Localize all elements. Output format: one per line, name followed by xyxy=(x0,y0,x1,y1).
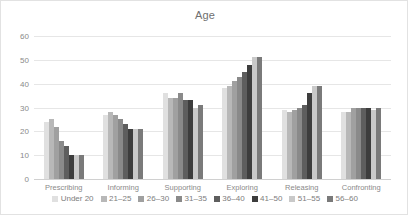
bar[interactable] xyxy=(317,86,322,179)
bar-group: Supporting xyxy=(153,36,213,179)
bar[interactable] xyxy=(257,57,262,179)
legend-item[interactable]: 21–25 xyxy=(101,194,132,203)
bar[interactable] xyxy=(198,105,203,179)
x-axis-category-label: Informing xyxy=(94,183,154,192)
legend-item[interactable]: 51–55 xyxy=(289,194,320,203)
x-axis-category-label: Prescribing xyxy=(34,183,94,192)
legend-label: 56–60 xyxy=(336,194,358,203)
bar-group: Informing xyxy=(94,36,154,179)
legend-item[interactable]: 26–30 xyxy=(138,194,169,203)
legend-item[interactable]: 56–60 xyxy=(327,194,358,203)
gridline-0: 0 xyxy=(34,179,391,180)
legend-label: 21–25 xyxy=(109,194,131,203)
legend-swatch-icon xyxy=(101,196,107,202)
legend-item[interactable]: 31–35 xyxy=(176,194,207,203)
legend-label: 31–35 xyxy=(185,194,207,203)
x-axis-category-label: Confronting xyxy=(332,183,392,192)
legend-label: 26–30 xyxy=(147,194,169,203)
legend-item[interactable]: Under 20 xyxy=(52,194,93,203)
x-axis-category-label: Releasing xyxy=(272,183,332,192)
bar[interactable] xyxy=(376,108,381,180)
bar-group: Confronting xyxy=(332,36,392,179)
legend-label: 41–50 xyxy=(260,194,282,203)
legend-swatch-icon xyxy=(327,196,333,202)
bar-group: Releasing xyxy=(272,36,332,179)
legend-swatch-icon xyxy=(176,196,182,202)
bar[interactable] xyxy=(138,129,143,179)
legend-label: 51–55 xyxy=(298,194,320,203)
y-axis-tick-label: 40 xyxy=(20,79,29,88)
legend-swatch-icon xyxy=(52,196,58,202)
bar-group: Prescribing xyxy=(34,36,94,179)
bar-group: Exploring xyxy=(213,36,273,179)
y-axis-tick-label: 0 xyxy=(25,175,29,184)
y-axis-tick-label: 30 xyxy=(20,103,29,112)
chart-legend: Under 2021–2526–3031–3536–4041–5051–5556… xyxy=(1,194,408,203)
chart-card: Age 6050403020100 PrescribingInformingSu… xyxy=(0,0,408,215)
y-axis-tick-label: 10 xyxy=(20,151,29,160)
y-axis-tick-label: 50 xyxy=(20,55,29,64)
x-axis-category-label: Supporting xyxy=(153,183,213,192)
plot-area: 6050403020100 PrescribingInformingSuppor… xyxy=(34,36,391,179)
chart-title: Age xyxy=(1,9,408,21)
legend-item[interactable]: 41–50 xyxy=(252,194,283,203)
legend-swatch-icon xyxy=(289,196,295,202)
legend-swatch-icon xyxy=(214,196,220,202)
y-axis-tick-label: 60 xyxy=(20,32,29,41)
bar-groups: PrescribingInformingSupportingExploringR… xyxy=(34,36,391,179)
legend-label: 36–40 xyxy=(222,194,244,203)
bar[interactable] xyxy=(79,155,84,179)
legend-item[interactable]: 36–40 xyxy=(214,194,245,203)
legend-swatch-icon xyxy=(138,196,144,202)
x-axis-category-label: Exploring xyxy=(213,183,273,192)
y-axis-tick-label: 20 xyxy=(20,127,29,136)
legend-swatch-icon xyxy=(252,196,258,202)
legend-label: Under 20 xyxy=(61,194,94,203)
